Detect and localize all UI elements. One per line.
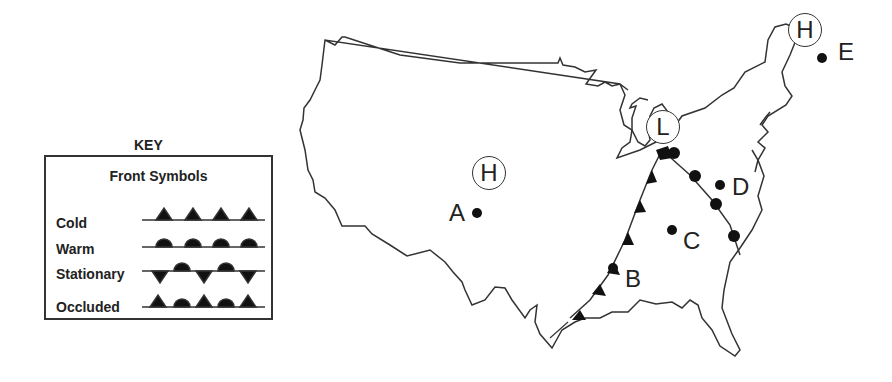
point-c-label: C [683, 227, 700, 255]
warm-front-semicircles [668, 147, 740, 242]
point-c-dot [667, 225, 677, 235]
key-label-occluded: Occluded [56, 299, 120, 315]
key-title: KEY [134, 137, 163, 153]
key-box: Front Symbols Cold Warm Stationary Occlu… [44, 155, 273, 320]
low-pressure-symbol: L [656, 113, 669, 141]
cold-front-line [570, 150, 662, 318]
point-d-dot [715, 180, 725, 190]
chesapeake-bay [752, 112, 770, 172]
key-label-cold: Cold [56, 215, 87, 231]
high-pressure-northeast: H [788, 13, 822, 47]
key-label-stationary: Stationary [56, 266, 124, 282]
point-a-dot [472, 208, 482, 218]
point-a-label: A [449, 199, 465, 227]
point-e-dot [817, 53, 827, 63]
high-pressure-central: H [472, 156, 506, 190]
us-outline [300, 24, 800, 356]
key-subtitle: Front Symbols [46, 168, 271, 184]
high-pressure-symbol: H [796, 16, 813, 44]
point-b-dot [608, 263, 618, 273]
high-pressure-symbol: H [480, 159, 497, 187]
key-label-warm: Warm [56, 241, 94, 257]
warm-front-line [662, 150, 740, 255]
point-d-label: D [732, 173, 749, 201]
station-points [472, 53, 827, 273]
point-e-label: E [838, 38, 854, 66]
point-b-label: B [625, 265, 641, 293]
cold-front-triangles [572, 170, 657, 320]
low-pressure-great-lakes: L [646, 110, 680, 144]
